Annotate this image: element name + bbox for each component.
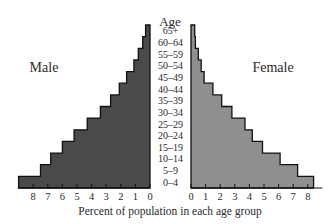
age-group-label: 55–59 (158, 49, 183, 60)
age-group-label: 0–4 (163, 177, 178, 188)
male-bar-area (19, 25, 150, 188)
x-tick-label: 1 (133, 191, 138, 202)
age-group-label: 40–44 (158, 84, 183, 95)
x-tick-label: 3 (232, 191, 237, 202)
age-group-label: 50–54 (158, 60, 183, 71)
x-tick-label: 7 (291, 191, 296, 202)
population-pyramid-chart: 0–45–910–1415–1920–2425–2930–3435–3940–4… (0, 0, 332, 224)
x-tick-label: 5 (261, 191, 266, 202)
age-group-label: 25–29 (158, 119, 183, 130)
age-group-label: 20–24 (158, 130, 183, 141)
x-tick-label: 2 (218, 191, 223, 202)
x-tick-label: 0 (147, 191, 152, 202)
x-tick-label: 4 (89, 191, 95, 202)
male-label: Male (30, 60, 59, 75)
x-tick-label: 7 (45, 191, 50, 202)
x-tick-label: 0 (188, 191, 193, 202)
age-group-label: 60–64 (158, 37, 183, 48)
age-group-label: 35–39 (158, 95, 183, 106)
x-tick-label: 8 (31, 191, 36, 202)
age-header: Age (159, 14, 181, 29)
age-labels: 0–45–910–1415–1920–2425–2930–3435–3940–4… (158, 25, 183, 187)
x-tick-label: 6 (276, 191, 281, 202)
age-group-label: 30–34 (158, 107, 183, 118)
x-axis-title: Percent of population in each age group (78, 205, 262, 218)
female-label: Female (252, 60, 293, 75)
male-bars (19, 25, 150, 188)
age-group-label: 10–14 (158, 153, 183, 164)
x-tick-label: 3 (104, 191, 109, 202)
age-group-label: 5–9 (163, 165, 178, 176)
x-tick-label: 8 (305, 191, 310, 202)
x-tick-label: 5 (74, 191, 79, 202)
age-group-label: 15–19 (158, 142, 183, 153)
x-tick-label: 4 (247, 191, 253, 202)
age-group-label: 45–49 (158, 72, 183, 83)
x-tick-label: 1 (203, 191, 208, 202)
female-bar-area (191, 25, 314, 188)
x-tick-label: 6 (60, 191, 65, 202)
female-bars (191, 25, 314, 188)
x-tick-label: 2 (118, 191, 123, 202)
